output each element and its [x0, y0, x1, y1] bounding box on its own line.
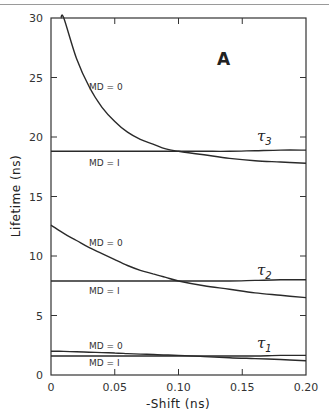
md1-tau1-label: MD = I	[89, 358, 120, 368]
x-tick-label: 0.10	[166, 381, 191, 394]
md1-tau2-label: MD = I	[89, 286, 120, 296]
y-axis-title: Lifetime (ns)	[9, 155, 23, 237]
x-axis-title: -Shift (ns)	[146, 397, 210, 411]
md0-tau1-label: MD = 0	[89, 341, 123, 351]
y-axis-ticks: 051015202530	[29, 12, 306, 382]
y-tick-label: 20	[29, 131, 43, 144]
y-tick-label: 5	[36, 310, 43, 323]
tau1-label: τ1	[257, 334, 272, 354]
y-tick-label: 25	[29, 72, 43, 85]
plot-frame	[51, 18, 306, 375]
x-tick-label: 0	[48, 381, 55, 394]
tau3-label: τ3	[257, 127, 272, 147]
y-tick-label: 10	[29, 250, 43, 263]
md0-tau3-label: MD = 0	[89, 82, 123, 92]
curve-tau1-md1	[51, 355, 306, 356]
x-axis-ticks: 00.050.100.150.20	[48, 18, 319, 394]
x-tick-label: 0.05	[103, 381, 128, 394]
curves	[51, 15, 306, 361]
x-tick-label: 0.15	[230, 381, 255, 394]
curve-tau3-md1	[51, 150, 306, 151]
y-tick-label: 0	[36, 369, 43, 382]
panel-letter: A	[217, 49, 231, 69]
y-tick-label: 15	[29, 191, 43, 204]
x-tick-label: 0.20	[294, 381, 319, 394]
tau2-label: τ2	[257, 261, 272, 281]
md0-tau2-label: MD = 0	[89, 238, 123, 248]
lifetime-chart: 051015202530 00.050.100.150.20 A τ3 τ2 τ…	[0, 0, 329, 415]
md1-tau3-label: MD = I	[89, 158, 120, 168]
y-tick-label: 30	[29, 12, 43, 25]
